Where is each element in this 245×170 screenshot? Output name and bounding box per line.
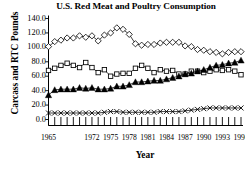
data-point-marker (96, 70, 100, 74)
chart-figure: U.S. Red Meat and Poultry Consumption Ca… (0, 0, 245, 170)
data-point-marker (232, 49, 238, 55)
data-point-marker (64, 35, 70, 41)
x-axis-tick-label: 1996 (228, 133, 245, 142)
data-point-marker (108, 74, 112, 78)
data-series-group (45, 25, 244, 116)
data-point-marker (45, 92, 51, 98)
data-point-marker (188, 44, 194, 50)
data-point-marker (65, 61, 69, 65)
data-point-marker (46, 68, 50, 72)
data-point-marker (201, 67, 207, 73)
data-point-marker (53, 66, 57, 70)
data-point-marker (232, 59, 238, 65)
data-point-marker (146, 66, 150, 70)
data-point-marker (90, 65, 94, 69)
data-point-marker (225, 49, 231, 55)
data-point-marker (176, 39, 182, 45)
data-point-marker (89, 85, 95, 91)
data-point-marker (76, 85, 82, 91)
data-point-marker (139, 63, 143, 67)
data-point-marker (107, 85, 113, 91)
data-point-marker (164, 69, 168, 73)
data-point-marker (201, 47, 207, 53)
x-axis-tick-label: 1965 (36, 133, 62, 142)
data-point-marker (59, 63, 63, 67)
data-point-marker (158, 68, 162, 72)
data-point-marker (239, 73, 243, 77)
data-point-marker (152, 70, 156, 74)
data-point-marker (139, 42, 145, 48)
data-series (45, 25, 244, 57)
data-point-marker (133, 66, 137, 70)
data-series (46, 60, 243, 78)
x-axis-tick-labels: 1965197219751978198119841987199019931996 (44, 133, 245, 145)
series-line (49, 28, 242, 54)
data-point-marker (238, 57, 244, 63)
data-point-marker (127, 71, 131, 75)
data-point-marker (233, 69, 237, 73)
data-point-marker (70, 35, 76, 41)
data-point-marker (102, 68, 106, 72)
data-point-marker (77, 65, 81, 69)
data-point-marker (182, 43, 188, 49)
data-point-marker (126, 82, 132, 88)
data-point-marker (213, 49, 219, 55)
x-axis-label: Year (46, 150, 244, 160)
data-point-marker (238, 49, 244, 55)
data-point-marker (207, 64, 213, 70)
data-point-marker (71, 63, 75, 67)
data-point-marker (83, 34, 89, 40)
data-point-marker (76, 33, 82, 39)
data-point-marker (207, 49, 213, 55)
data-point-marker (220, 68, 224, 72)
data-point-marker (157, 40, 163, 46)
data-point-marker (226, 68, 230, 72)
data-point-marker (219, 51, 225, 57)
data-point-marker (132, 41, 138, 47)
data-point-marker (194, 46, 200, 52)
data-point-marker (163, 39, 169, 45)
data-point-marker (58, 37, 64, 43)
data-point-marker (145, 41, 151, 47)
data-point-marker (121, 71, 125, 75)
data-series (46, 105, 244, 115)
data-point-marker (84, 60, 88, 64)
data-point-marker (170, 68, 174, 72)
data-point-marker (170, 39, 176, 45)
data-point-marker (115, 72, 119, 76)
data-point-marker (151, 41, 157, 47)
